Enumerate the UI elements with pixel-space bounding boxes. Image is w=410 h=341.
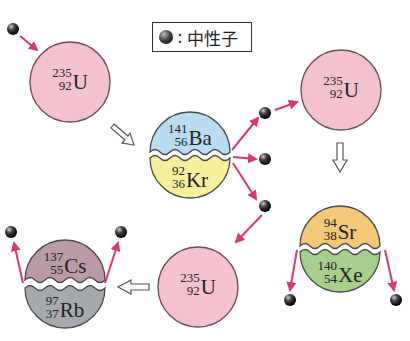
legend-separator: : [177,27,183,47]
neutron-icon [259,200,271,212]
label-cs: 13755 Cs [35,248,95,278]
label-ba: 14156 Ba [160,120,220,150]
legend-label: 中性子 [187,25,238,50]
label-kr: 9236 Kr [160,162,220,192]
legend: : 中性子 [152,22,252,52]
label-u3: 23592 U [168,269,228,299]
arrow-down-right-icon [111,124,134,145]
neutron-icon [7,23,19,35]
neutron-icon [390,294,402,306]
label-u1: 23592 U [40,64,100,94]
label-sr: 9438 Sr [310,214,370,244]
label-xe: 14054 Xe [310,257,370,287]
label-u2: 23592 U [311,72,371,102]
neutron-icon [159,30,173,44]
label-rb: 9737 Rb [35,292,95,322]
neutron-icon [5,226,17,238]
neutron-icon [259,107,271,119]
neutron-icon [259,153,271,165]
arrow-left-icon [118,280,149,294]
neutron-icon [115,226,127,238]
arrow-down-icon [333,143,347,172]
neutron-icon [284,294,296,306]
